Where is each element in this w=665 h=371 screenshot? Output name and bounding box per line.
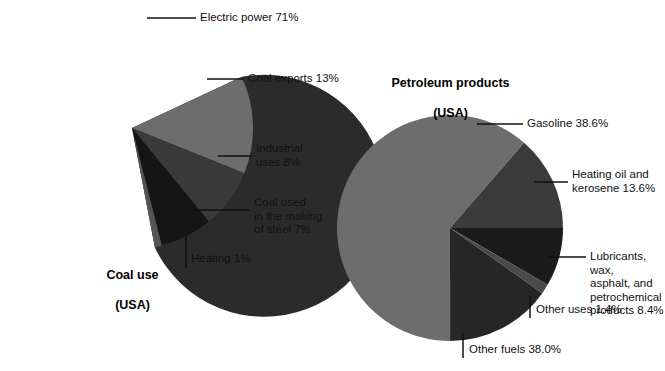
label-electric-power: Electric power 71% — [200, 11, 298, 25]
pie-chart-figure: Electric power 71% Coal exports 13% Indu… — [0, 0, 665, 371]
label-coal-steel: Coal used in the making of steel 7% — [254, 196, 322, 237]
petroleum-products-pie — [337, 115, 563, 341]
chart-title-coal-use-line1: Coal use — [55, 268, 210, 283]
chart-title-coal-use-line2: (USA) — [55, 298, 210, 313]
label-gasoline: Gasoline 38.6% — [527, 117, 608, 131]
chart-title-petroleum-line2: (USA) — [369, 106, 532, 121]
label-coal-exports: Coal exports 13% — [248, 72, 339, 86]
label-other-fuels: Other fuels 38.0% — [469, 343, 561, 357]
chart-title-coal-use: Coal use (USA) — [55, 253, 210, 328]
chart-title-petroleum-line1: Petroleum products — [369, 76, 532, 91]
label-heating-oil-kerosene: Heating oil and kerosene 13.6% — [572, 168, 655, 195]
label-industrial-uses: Industrial uses 8% — [256, 142, 303, 169]
label-other-uses: Other uses 1.4% — [536, 303, 622, 317]
chart-title-petroleum-products: Petroleum products (USA) — [369, 61, 532, 136]
